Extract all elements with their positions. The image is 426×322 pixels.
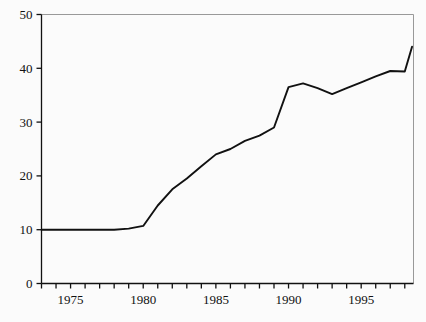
y-axis-tick-label: 40 bbox=[20, 61, 33, 76]
y-axis-tick-label: 50 bbox=[20, 7, 33, 22]
y-axis-tick-label: 10 bbox=[20, 222, 33, 237]
x-axis-tick-label: 1990 bbox=[276, 292, 302, 307]
x-axis-tick-label: 1995 bbox=[348, 292, 374, 307]
x-axis-tick-label: 1975 bbox=[58, 292, 84, 307]
x-axis-tick-label: 1980 bbox=[130, 292, 156, 307]
plot-frame bbox=[42, 15, 414, 284]
data-series-line bbox=[42, 47, 413, 230]
x-axis-tick-label: 1985 bbox=[203, 292, 229, 307]
y-axis-tick-label: 30 bbox=[20, 115, 33, 130]
line-chart: 0102030405019751980198519901995 bbox=[0, 0, 426, 322]
chart-container: 0102030405019751980198519901995 bbox=[0, 0, 426, 322]
y-axis-tick-label: 20 bbox=[20, 168, 33, 183]
y-axis-tick-label: 0 bbox=[26, 276, 33, 291]
